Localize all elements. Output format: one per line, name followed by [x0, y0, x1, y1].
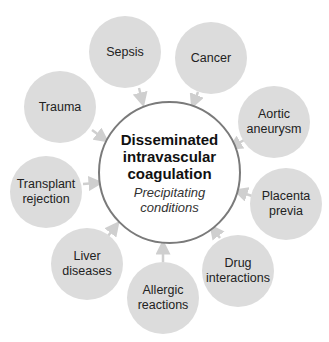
node-label: Drug interactions — [206, 256, 270, 286]
node-liver-diseases: Liver diseases — [51, 228, 123, 300]
node-allergic-reactions: Allergic reactions — [127, 262, 199, 334]
center-title: Disseminated intravascular coagulation — [121, 131, 219, 182]
node-label: Cancer — [191, 51, 231, 66]
node-drug-interactions: Drug interactions — [202, 235, 274, 307]
arrow-sepsis — [139, 88, 142, 100]
center-circle: Disseminated intravascular coagulation P… — [98, 101, 241, 244]
node-label: Placenta previa — [262, 189, 311, 219]
node-label: Sepsis — [106, 45, 144, 60]
node-label: Liver diseases — [62, 249, 111, 279]
node-label: Aortic aneurysm — [247, 107, 302, 137]
node-transplant-rejection: Transplant rejection — [10, 156, 82, 228]
node-label: Trauma — [39, 100, 82, 115]
dic-diagram: Disseminated intravascular coagulation P… — [0, 0, 329, 342]
node-label: Allergic reactions — [138, 283, 189, 313]
node-trauma: Trauma — [24, 71, 96, 143]
arrow-cancer — [194, 92, 198, 102]
arrow-transplant — [83, 183, 96, 184]
node-cancer: Cancer — [175, 22, 247, 94]
arrow-drug — [214, 230, 220, 238]
node-label: Transplant rejection — [17, 177, 76, 207]
node-sepsis: Sepsis — [89, 16, 161, 88]
node-placenta-previa: Placenta previa — [250, 168, 322, 240]
arrow-trauma — [92, 130, 103, 138]
center-subtitle: Precipitating conditions — [134, 185, 206, 215]
node-aortic-aneurysm: Aortic aneurysm — [238, 86, 310, 158]
